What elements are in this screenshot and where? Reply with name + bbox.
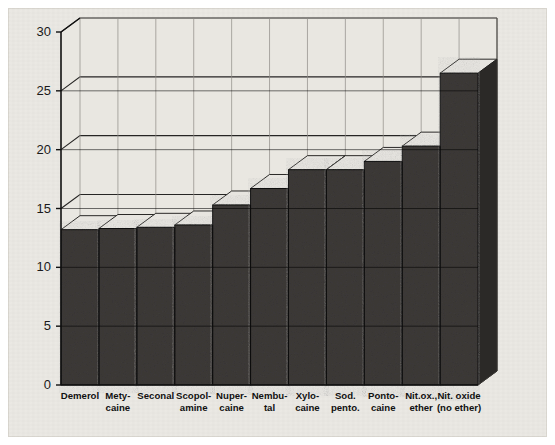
- y-axis-tick-label-0: 0: [25, 377, 51, 392]
- bar-front-face: [251, 188, 289, 385]
- bar-front-face: [364, 161, 402, 385]
- bar-11[interactable]: [440, 59, 497, 385]
- bar-front-face: [440, 73, 478, 385]
- bar-front-face: [175, 225, 213, 385]
- y-axis-tick-label-20: 20: [25, 142, 51, 157]
- bar-chart-canvas: [0, 0, 555, 445]
- y-axis-tick-label-5: 5: [25, 318, 51, 333]
- x-axis-category-label-11: Nit. oxide (no ether): [431, 390, 487, 413]
- bar-front-face: [137, 227, 175, 385]
- y-axis-tick-label-30: 30: [25, 24, 51, 39]
- bar-side-face: [478, 59, 497, 385]
- y-axis-tick-label-15: 15: [25, 201, 51, 216]
- bar-front-face: [288, 170, 326, 385]
- bar-front-face: [213, 205, 251, 385]
- bar-front-face: [326, 170, 364, 385]
- bar-front-face: [61, 230, 99, 385]
- bar-front-face: [402, 146, 440, 385]
- chart-figure: 051015202530 DemerolMety- caineSeconalSc…: [0, 0, 555, 445]
- y-axis-tick-label-10: 10: [25, 259, 51, 274]
- y-axis-tick-label-25: 25: [25, 83, 51, 98]
- bar-front-face: [99, 229, 137, 385]
